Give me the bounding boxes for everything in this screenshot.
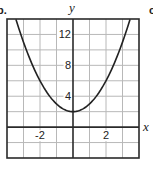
x-tick-label: -2 <box>35 129 45 141</box>
x-tick-label: 2 <box>103 129 109 141</box>
panel-label: b. <box>0 4 7 16</box>
y-tick-label: 8 <box>65 59 71 71</box>
y-tick-label: 12 <box>59 28 71 40</box>
axes <box>7 19 139 158</box>
y-tick-label: 4 <box>65 90 71 102</box>
y-axis-title: y <box>67 0 75 15</box>
next-panel-label-fragment: c <box>149 4 153 16</box>
x-axis-title: x <box>142 119 149 134</box>
parabola-graph: b. c 4812-22 x y <box>0 0 153 170</box>
tick-labels: 4812-22 <box>33 28 111 141</box>
